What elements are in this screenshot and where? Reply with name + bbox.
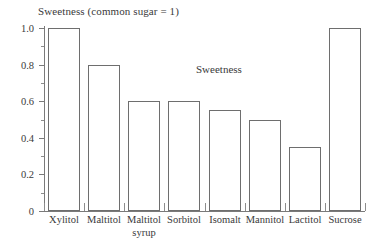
bars-layer [0,0,375,212]
x-label: Isomalt [209,213,241,226]
x-label: Xylitol [49,213,79,226]
x-label-line2: syrup [127,226,161,239]
sweetness-bar-chart: Sweetness (common sugar = 1) Sweetness 0… [0,0,375,251]
bar [329,28,361,211]
x-label: Maltitolsyrup [127,213,161,239]
x-label: Maltitol [87,213,121,226]
bar [168,101,200,211]
bar [88,65,120,211]
bar [249,120,281,212]
bar [289,147,321,211]
bar [209,110,241,211]
x-label: Sucrose [328,213,361,226]
x-label: Sorbitol [167,213,201,226]
bar [128,101,160,211]
x-label: Lactitol [289,213,322,226]
bar [48,28,80,211]
x-label: Mannitol [246,213,285,226]
